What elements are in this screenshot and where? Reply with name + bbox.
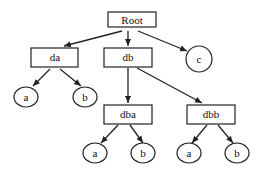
node-root-label: Root xyxy=(121,14,142,26)
tree-diagram: Root da db c a b dba dbb xyxy=(0,0,259,174)
node-da-label: da xyxy=(50,51,61,63)
edge-dbb-b xyxy=(218,125,233,143)
node-root: Root xyxy=(108,12,156,27)
node-dbb-a-label: a xyxy=(187,147,192,159)
node-da-b-label: b xyxy=(82,91,88,103)
node-da-a-label: a xyxy=(24,91,29,103)
edge-root-da xyxy=(64,31,122,46)
node-dbb: dbb xyxy=(187,105,235,124)
node-db: db xyxy=(104,48,152,67)
node-dba-b-label: b xyxy=(140,147,146,159)
node-dbb-b-label: b xyxy=(234,147,240,159)
edge-dba-a xyxy=(101,125,118,143)
edge-da-b xyxy=(60,69,81,86)
node-c-label: c xyxy=(197,53,202,65)
edge-da-a xyxy=(33,69,50,86)
node-db-label: db xyxy=(123,51,135,63)
node-dba: dba xyxy=(104,105,152,124)
node-dba-a: a xyxy=(83,143,107,163)
node-dba-label: dba xyxy=(120,108,136,120)
node-dbb-a: a xyxy=(177,143,201,163)
node-da-a: a xyxy=(14,87,38,107)
node-dbb-label: dbb xyxy=(203,108,220,120)
edge-dbb-a xyxy=(192,125,207,143)
node-dba-a-label: a xyxy=(93,147,98,159)
node-dba-b: b xyxy=(131,143,155,163)
edge-dba-b xyxy=(130,125,143,143)
node-dbb-b: b xyxy=(225,143,249,163)
node-da: da xyxy=(31,48,78,67)
edge-db-dbb xyxy=(137,68,202,103)
node-da-b: b xyxy=(73,87,97,107)
node-c: c xyxy=(186,46,212,72)
